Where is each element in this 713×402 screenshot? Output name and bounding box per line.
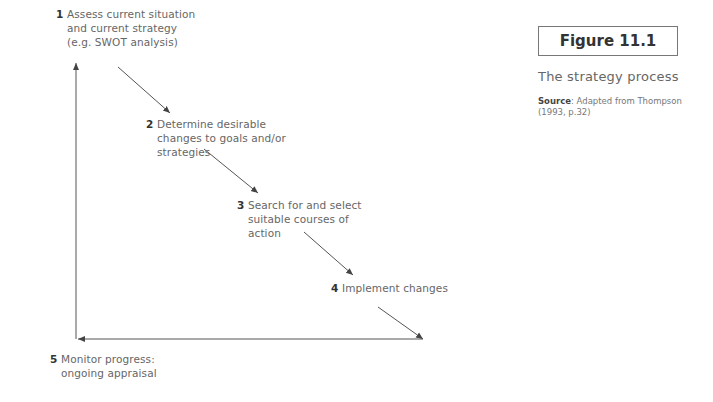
step-text: action: [248, 226, 362, 240]
step-text: Search for and select: [248, 198, 362, 212]
step-text: (e.g. SWOT analysis): [67, 35, 195, 49]
step-text: Assess current situation: [67, 7, 195, 21]
figure-title: The strategy process: [538, 69, 679, 84]
step-text: and current strategy: [67, 21, 195, 35]
step-2: 2 Determine desirable changes to goals a…: [157, 117, 286, 159]
step-text: changes to goals and/or: [157, 131, 286, 145]
step-number: 4: [331, 281, 338, 295]
step-number: 2: [146, 117, 153, 131]
step-1: 1 Assess current situation and current s…: [67, 7, 195, 49]
step-number: 1: [56, 7, 63, 21]
step-5: 5 Monitor progress: ongoing appraisal: [61, 352, 157, 380]
step-number: 3: [237, 198, 244, 212]
step-number: 5: [50, 352, 57, 366]
step-text: Implement changes: [342, 281, 448, 295]
figure-source: Source: Adapted from Thompson (1993, p.3…: [538, 96, 698, 118]
arrow-1-to-2: [118, 67, 170, 113]
step-text: ongoing appraisal: [61, 366, 157, 380]
figure-label: Figure 11.1: [538, 26, 678, 56]
step-text: suitable courses of: [248, 212, 362, 226]
step-text: strategies: [157, 145, 286, 159]
step-3: 3 Search for and select suitable courses…: [248, 198, 362, 240]
arrow-4-to-bottom: [378, 307, 423, 339]
step-text: Monitor progress:: [61, 352, 157, 366]
step-text: Determine desirable: [157, 117, 286, 131]
step-4: 4 Implement changes: [342, 281, 448, 295]
source-label: Source: [538, 96, 571, 106]
